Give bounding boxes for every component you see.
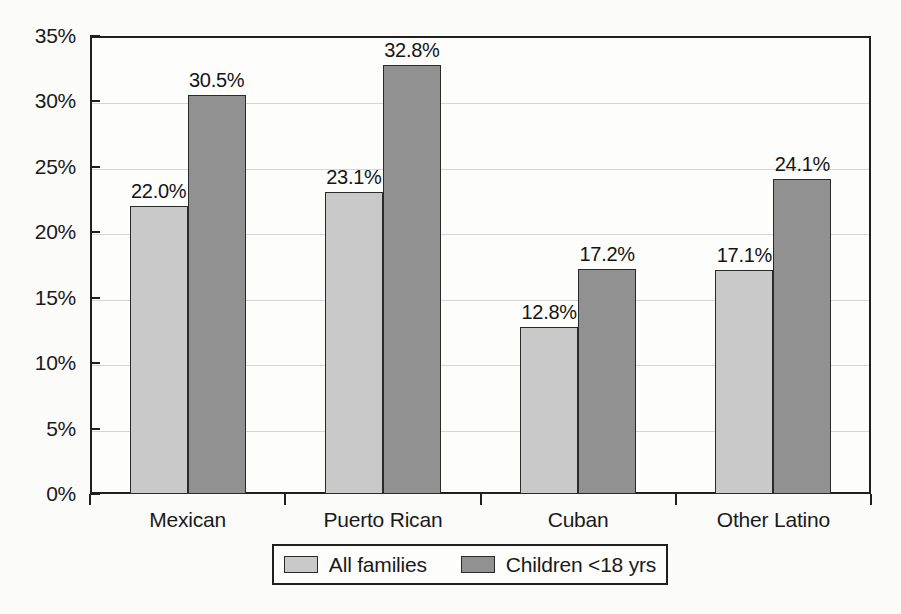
bar <box>383 65 441 494</box>
y-tick-mark <box>90 493 100 495</box>
x-tick-mark <box>870 494 872 505</box>
legend-swatch-children <box>461 556 495 573</box>
bar-value-label: 17.2% <box>580 243 635 266</box>
legend-label-children: Children <18 yrs <box>506 553 656 577</box>
x-category-label: Other Latino <box>717 508 830 532</box>
bar-value-label: 17.1% <box>717 244 772 267</box>
legend-item-all-families: All families <box>284 553 427 577</box>
chart-legend: All families Children <18 yrs <box>272 544 668 585</box>
bar-value-label: 32.8% <box>384 39 439 62</box>
y-axis: 0%5%10%15%20%25%30%35% <box>18 36 76 494</box>
y-tick-mark <box>90 231 100 233</box>
y-tick-mark <box>90 428 100 430</box>
x-category-label: Mexican <box>149 508 226 532</box>
x-tick-mark <box>89 494 91 505</box>
x-tick-mark <box>284 494 286 505</box>
bar-value-label: 30.5% <box>189 69 244 92</box>
legend-item-children: Children <18 yrs <box>461 553 656 577</box>
bar-chart: 0%5%10%15%20%25%30%35% 22.0%30.5%23.1%32… <box>0 0 901 614</box>
bar-value-label: 22.0% <box>131 180 186 203</box>
x-tick-mark <box>675 494 677 505</box>
y-tick-mark <box>90 166 100 168</box>
y-tick-mark <box>90 35 100 37</box>
x-tick-mark <box>480 494 482 505</box>
y-tick-label: 0% <box>20 482 76 506</box>
bar <box>520 327 578 494</box>
y-tick-label: 15% <box>20 286 76 310</box>
legend-label-all-families: All families <box>329 553 427 577</box>
bar-value-label: 24.1% <box>775 153 830 176</box>
y-tick-label: 10% <box>20 351 76 375</box>
bar <box>130 206 188 494</box>
y-tick-mark <box>90 297 100 299</box>
y-tick-label: 25% <box>20 155 76 179</box>
bar-value-label: 23.1% <box>326 166 381 189</box>
bar <box>325 192 383 494</box>
x-category-label: Puerto Rican <box>323 508 442 532</box>
y-tick-label: 5% <box>20 417 76 441</box>
y-tick-mark <box>90 362 100 364</box>
bar <box>715 270 773 494</box>
bar <box>188 95 246 494</box>
bar <box>578 269 636 494</box>
bar <box>773 179 831 494</box>
bar-value-label: 12.8% <box>522 301 577 324</box>
x-category-label: Cuban <box>548 508 609 532</box>
y-tick-label: 20% <box>20 220 76 244</box>
y-tick-mark <box>90 100 100 102</box>
legend-swatch-all-families <box>284 556 318 573</box>
bars-layer: 22.0%30.5%23.1%32.8%12.8%17.2%17.1%24.1% <box>90 36 871 494</box>
y-tick-label: 35% <box>20 24 76 48</box>
y-tick-label: 30% <box>20 89 76 113</box>
